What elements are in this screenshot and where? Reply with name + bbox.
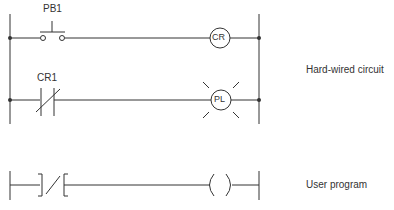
pl-light-label: PL (214, 94, 225, 104)
output-coil-icon (210, 174, 231, 196)
pushbutton-icon (40, 21, 65, 41)
user-program-caption: User program (306, 179, 367, 190)
cr1-label: CR1 (37, 72, 57, 83)
nc-contact-icon (36, 88, 60, 116)
cr-coil-label: CR (212, 32, 225, 42)
hardwired-caption: Hard-wired circuit (306, 64, 384, 75)
pb1-label: PB1 (43, 3, 62, 14)
examine-if-open-icon (38, 174, 68, 196)
